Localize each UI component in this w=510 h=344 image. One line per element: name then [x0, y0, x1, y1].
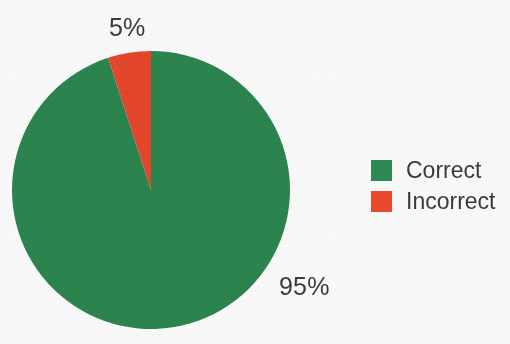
legend-item-incorrect[interactable]: Incorrect [371, 191, 495, 212]
pie-label-incorrect: 5% [109, 15, 146, 40]
legend-swatch-correct-icon [371, 160, 392, 181]
pie-svg [12, 51, 290, 329]
legend-label-incorrect: Incorrect [406, 190, 495, 213]
pie-chart-figure: 5% 95% Correct Incorrect [0, 0, 510, 344]
legend-label-correct: Correct [406, 159, 481, 182]
pie-chart-graphic [12, 51, 290, 329]
legend-swatch-incorrect-icon [371, 191, 392, 212]
legend-item-correct[interactable]: Correct [371, 160, 495, 181]
pie-label-correct: 95% [279, 274, 330, 299]
chart-legend: Correct Incorrect [371, 160, 495, 212]
